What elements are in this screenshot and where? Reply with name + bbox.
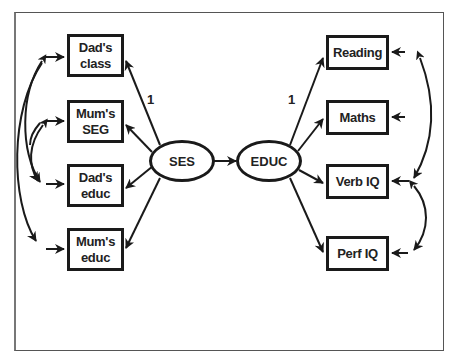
path-educ-perf-iq (290, 178, 323, 252)
path-educ-maths (298, 119, 323, 151)
box-perf-iq: Perf IQ (326, 236, 389, 271)
path-ses-mums-educ (126, 178, 160, 248)
box-maths: Maths (326, 100, 389, 135)
box-verb-iq: Verb IQ (326, 164, 389, 199)
path-educ-verb-iq (299, 170, 323, 183)
latent-label: EDUC (251, 154, 288, 169)
box-label-line1: Dad's (79, 170, 112, 186)
box-dads-class: Dad's class (67, 34, 124, 77)
box-label: Verb IQ (336, 174, 379, 190)
path-label-ses-dads-class: 1 (147, 92, 154, 107)
latent-ses: SES (149, 140, 215, 182)
path-ses-mums-seg (126, 125, 152, 152)
box-label-line1: Dad's (79, 40, 112, 56)
box-label: Maths (339, 110, 375, 126)
box-reading: Reading (326, 35, 389, 70)
latent-label: SES (169, 154, 195, 169)
box-dads-educ: Dad's educ (67, 164, 124, 207)
path-label-educ-reading: 1 (288, 92, 295, 107)
box-label: Perf IQ (337, 246, 378, 262)
box-label-line2: class (80, 56, 111, 72)
box-label-line2: educ (81, 186, 110, 202)
path-ses-dads-educ (126, 166, 153, 188)
box-label-line2: SEG (82, 122, 109, 138)
latent-educ: EDUC (236, 140, 302, 182)
path-ses-dads-class (126, 61, 160, 145)
box-label-line2: educ (81, 250, 110, 266)
box-label: Reading (333, 45, 382, 61)
box-label-line1: Mum's (76, 234, 115, 250)
box-label-line1: Mum's (76, 106, 115, 122)
box-mums-educ: Mum's educ (67, 228, 124, 271)
box-mums-seg: Mum's SEG (67, 100, 124, 143)
